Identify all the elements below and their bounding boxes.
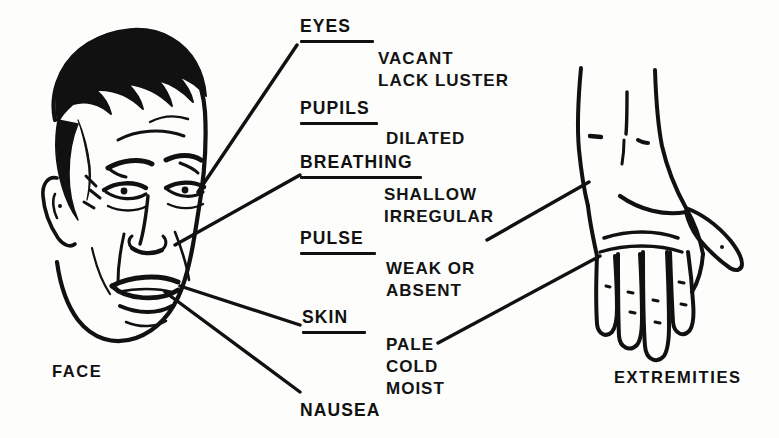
sign-heading-rule-pulse [300,252,376,255]
sign-heading-rule-breathing [300,176,422,179]
sign-heading-rule-skin [302,331,366,334]
figure-caption-extremities: EXTREMITIES [614,368,742,387]
sign-details-eyes: VACANT LACK LUSTER [378,48,509,92]
sign-detail-line: VACANT [378,48,509,70]
sign-details-pupils: DILATED [386,128,465,150]
sign-detail-line: WEAK OR [386,258,475,280]
leader-line-breathing [175,175,300,245]
sign-details-pulse: WEAK OR ABSENT [386,258,475,302]
figure-caption-face: FACE [52,362,102,381]
sign-group-pulse: PULSE [300,228,376,255]
sign-heading-rule-pupils [300,122,378,125]
shock-signs-diagram: EYES VACANT LACK LUSTER PUPILS DILATED B… [0,0,779,438]
sign-heading-pulse: PULSE [300,228,364,251]
sign-details-skin: PALE COLD MOIST [386,334,445,400]
sign-group-pupils: PUPILS [300,98,378,125]
sign-heading-eyes: EYES [300,16,351,39]
sign-detail-line: DILATED [386,128,465,150]
leader-line-nausea [165,292,300,392]
sign-detail-line: MOIST [386,378,445,400]
sign-heading-breathing: BREATHING [300,152,413,175]
sign-heading-skin: SKIN [302,307,348,330]
leader-line-skin-face [180,286,300,325]
sign-group-eyes: EYES [300,16,374,43]
sign-detail-line: LACK LUSTER [378,70,509,92]
sign-details-breathing: SHALLOW IRREGULAR [384,184,494,228]
leader-line-pulse [487,182,589,240]
leader-lines [165,45,600,392]
sign-detail-line: COLD [386,356,445,378]
sign-detail-line: SHALLOW [384,184,494,206]
sign-detail-line: ABSENT [386,280,475,302]
sign-heading-rule-eyes [300,40,374,43]
hand-illustration [578,68,742,360]
sign-detail-line: IRREGULAR [384,206,494,228]
sign-group-nausea: NAUSEA [300,400,381,421]
face-illustration [43,29,206,341]
leader-line-eyes [198,45,297,192]
sign-detail-line: PALE [386,334,445,356]
sign-group-breathing: BREATHING [300,152,422,179]
sign-heading-pupils: PUPILS [300,98,370,121]
sign-group-skin: SKIN [302,307,366,334]
sign-heading-nausea: NAUSEA [300,400,381,420]
